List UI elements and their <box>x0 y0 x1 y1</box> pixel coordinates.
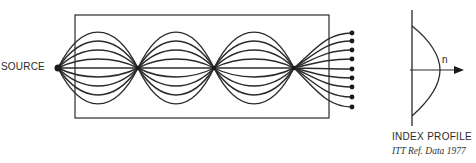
output-dot <box>350 31 355 36</box>
focus-point <box>292 66 296 70</box>
focus-point <box>212 66 216 70</box>
index-profile-title: INDEX PROFILE <box>392 131 472 142</box>
focus-point <box>136 66 140 70</box>
output-dot <box>350 95 355 100</box>
ray-path <box>58 32 352 107</box>
output-dots <box>350 31 355 110</box>
ray-path <box>58 68 352 69</box>
output-dot <box>350 48 355 53</box>
parabolic-index-curve <box>412 26 440 116</box>
ray-paths <box>58 32 352 107</box>
output-dot <box>350 85 355 90</box>
arrow-right-icon <box>454 66 464 74</box>
output-dot <box>350 39 355 44</box>
output-dot <box>350 105 355 110</box>
output-dot <box>350 57 355 62</box>
source-label: SOURCE <box>1 61 45 72</box>
source-credit: ITT Ref. Data 1977 <box>392 146 466 156</box>
refractive-index-label: n <box>442 54 448 65</box>
output-dot <box>350 76 355 81</box>
output-dot <box>350 67 355 72</box>
source-point <box>55 65 62 72</box>
index-profile-graph <box>410 10 464 126</box>
